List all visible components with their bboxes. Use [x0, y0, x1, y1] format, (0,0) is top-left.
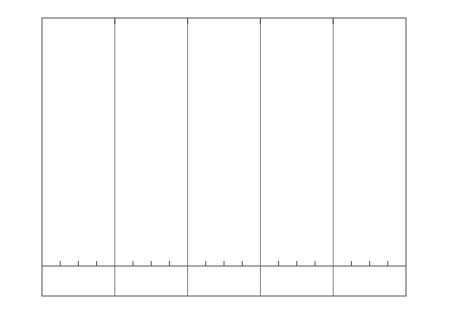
growth-chart — [0, 0, 451, 316]
plot-frame — [42, 18, 406, 296]
